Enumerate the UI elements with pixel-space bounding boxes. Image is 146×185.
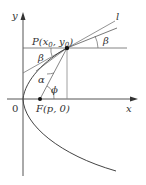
reflected-ray — [67, 28, 117, 48]
y-axis-arrow-icon — [21, 12, 26, 20]
x-axis-label: x — [126, 103, 132, 114]
angle-beta-left: β — [37, 52, 44, 63]
parabola-diagram: y x 0 l P(x0, y0) F(p, 0) β β α ϕ — [0, 0, 146, 185]
beta-top-arc — [95, 36, 98, 48]
angle-beta-top: β — [102, 35, 109, 46]
angle-alpha: α — [38, 74, 45, 85]
line-l-label: l — [116, 11, 119, 22]
point-p-label: P(x0, y0) — [31, 36, 73, 49]
y-axis-label: y — [11, 10, 18, 21]
x-axis-arrow-icon — [130, 97, 138, 102]
beta-left-arc — [51, 48, 52, 56]
point-f — [38, 97, 42, 101]
origin-label: 0 — [12, 103, 18, 114]
angle-phi: ϕ — [51, 84, 58, 95]
point-f-label: F(p, 0) — [35, 103, 70, 114]
